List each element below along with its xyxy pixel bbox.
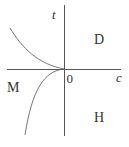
region-label-d: D <box>94 32 104 47</box>
region-label-m: M <box>7 80 20 95</box>
lower-boundary-curve <box>25 69 64 135</box>
upper-boundary-curve <box>10 28 64 69</box>
c-axis-label: c <box>116 70 122 85</box>
region-label-h: H <box>94 110 104 125</box>
origin-label: 0 <box>67 71 74 86</box>
t-axis-label: t <box>52 7 56 22</box>
phase-diagram: t c 0 D M H <box>0 0 129 147</box>
